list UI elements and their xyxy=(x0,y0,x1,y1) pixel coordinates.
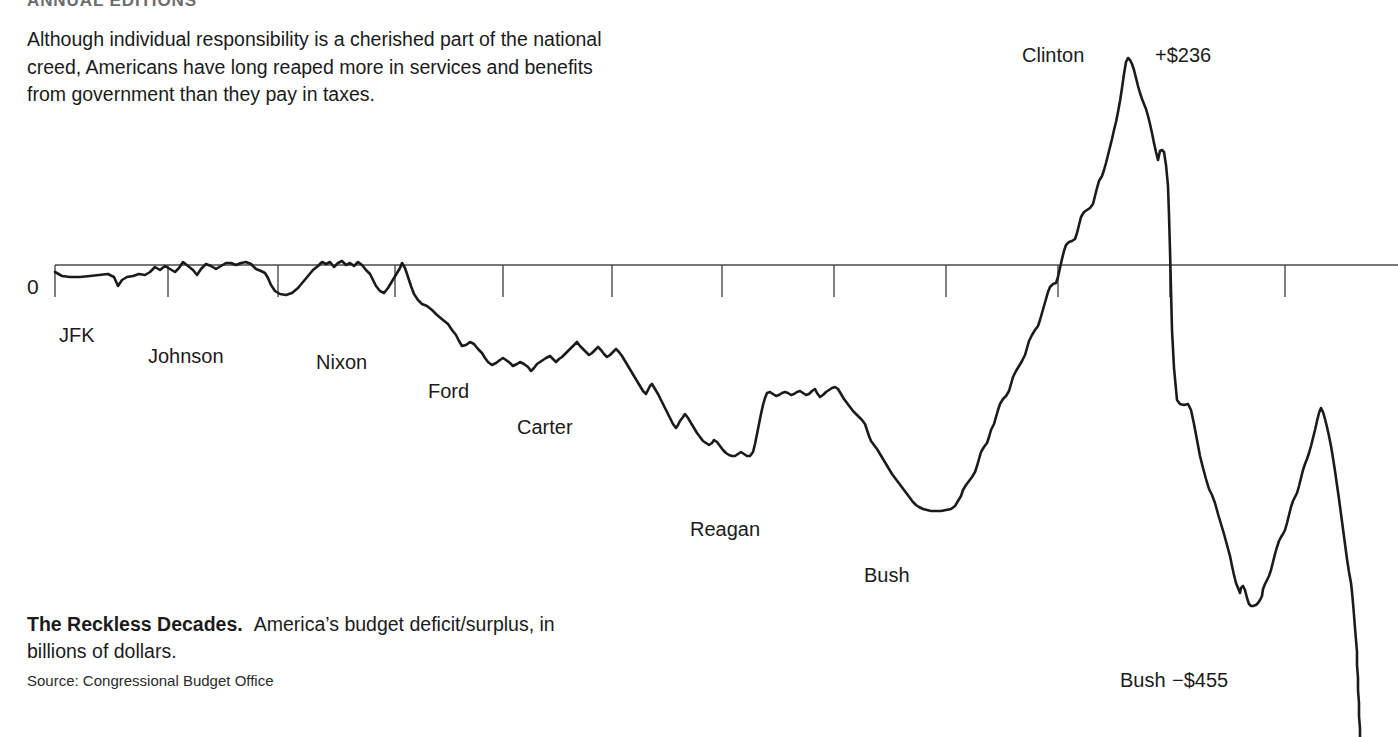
president-label-johnson: Johnson xyxy=(148,346,224,366)
president-label-carter: Carter xyxy=(517,417,573,437)
caption-text: The Reckless Decades.America’s budget de… xyxy=(27,611,687,665)
caption-body-line-1: America’s budget deficit/surplus, in xyxy=(254,613,555,635)
president-label-nixon: Nixon xyxy=(316,352,367,372)
caption-source: Source: Congressional Budget Office xyxy=(27,672,687,690)
annotation-bush2-trough-label: Bush xyxy=(1120,670,1166,690)
annotation-bush2-trough-value: −$455 xyxy=(1172,670,1228,690)
president-label-bush: Bush xyxy=(864,565,910,585)
president-label-reagan: Reagan xyxy=(690,519,760,539)
president-label-jfk: JFK xyxy=(59,325,95,345)
figure-caption: The Reckless Decades.America’s budget de… xyxy=(27,611,687,690)
caption-body-line-2: billions of dollars. xyxy=(27,638,687,665)
president-label-ford: Ford xyxy=(428,381,469,401)
axis-tick-group xyxy=(55,265,1285,297)
annotation-clinton-peak-label: Clinton xyxy=(1022,45,1084,65)
caption-title: The Reckless Decades. xyxy=(27,613,243,635)
annotation-clinton-peak-value: +$236 xyxy=(1155,45,1211,65)
axis-zero-label: 0 xyxy=(27,276,39,297)
